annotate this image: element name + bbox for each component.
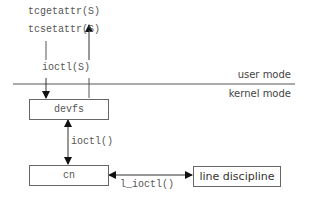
l-ioctl-label: l_ioctl() — [120, 179, 174, 190]
ioctl-user-label: ioctl(S) — [42, 62, 90, 73]
devfs-box: devfs — [29, 99, 109, 120]
devfs-label: devfs — [54, 104, 84, 115]
user-mode-label: user mode — [238, 69, 291, 80]
line-discipline-box: line discipline — [193, 166, 281, 187]
ioctl-kernel-label: ioctl() — [71, 136, 113, 147]
cn-box: cn — [29, 165, 109, 186]
cn-label: cn — [63, 170, 75, 181]
tcsetattr-label: tcsetattr(S) — [28, 24, 100, 35]
line-discipline-label: line discipline — [199, 170, 274, 183]
tcgetattr-label: tcgetattr(S) — [28, 6, 100, 17]
kernel-mode-label: kernel mode — [229, 88, 291, 99]
